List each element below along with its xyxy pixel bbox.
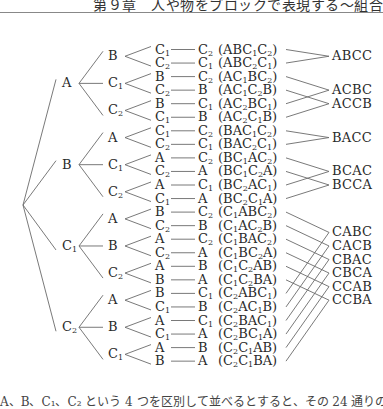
result-label: CCBA <box>332 293 372 306</box>
level2-edge <box>125 219 151 229</box>
root-edge-0 <box>23 79 56 205</box>
level3-node: C1 <box>155 327 170 340</box>
level3-node: C2 <box>155 246 170 259</box>
level4-node: C2 <box>198 70 213 83</box>
level4-node: A <box>198 192 207 205</box>
level3-node: B <box>155 70 165 83</box>
level3-node: A <box>155 341 164 354</box>
level3-node: B <box>155 286 165 299</box>
level1-edge <box>79 246 103 278</box>
level3-node: C1 <box>155 110 170 123</box>
level4-node: C2 <box>198 43 213 56</box>
level3-node: B <box>155 205 165 218</box>
merge-edge <box>286 226 329 246</box>
level3-node: C2 <box>155 56 170 69</box>
merge-edge <box>286 212 329 232</box>
root-edge-3 <box>23 205 56 331</box>
sequence-label: (C1ABC2) <box>218 205 277 218</box>
level2-edge <box>125 110 151 120</box>
level2-node: C1 <box>108 347 123 360</box>
result-label: CBCA <box>332 266 372 279</box>
level4-node: C2 <box>198 205 213 218</box>
result-label: BCCA <box>332 178 372 191</box>
level3-node: A <box>155 178 164 191</box>
merge-edge <box>286 56 329 63</box>
sequence-label: (BC1C2A) <box>218 164 277 177</box>
root-edge-1 <box>23 161 56 205</box>
level4-node: A <box>198 246 207 259</box>
level4-node: A <box>198 354 207 367</box>
footer-text: A、B、C₁、C₂ という 4 つを区別して並べるとすると、その 24 通りの全… <box>0 392 383 409</box>
merge-edge <box>286 50 329 57</box>
level3-node: B <box>155 354 165 367</box>
level2-edge <box>125 47 151 57</box>
result-label: CCAB <box>332 280 372 293</box>
level1-node: C1 <box>62 239 77 252</box>
level2-node: A <box>108 212 117 225</box>
level1-edge <box>79 133 103 165</box>
merge-edge <box>286 300 329 361</box>
level4-node: A <box>198 327 207 340</box>
level2-node: C1 <box>108 76 123 89</box>
level1-edge <box>79 83 103 115</box>
sequence-label: (AC2BC1) <box>218 97 277 110</box>
level2-edge <box>125 246 151 256</box>
level4-node: C2 <box>198 232 213 245</box>
level3-node: C1 <box>155 43 170 56</box>
level1-node: B <box>62 158 72 171</box>
result-label: BCAC <box>332 164 372 177</box>
root-edge-2 <box>23 205 56 250</box>
level2-node: B <box>108 49 118 62</box>
level2-edge <box>125 209 151 219</box>
level3-node: A <box>155 232 164 245</box>
level2-edge <box>125 56 151 66</box>
sequence-label: (BAC1C2) <box>218 124 277 137</box>
sequence-label: (C2ABC1) <box>218 286 277 299</box>
level4-node: A <box>198 273 207 286</box>
sequence-label: (C1BAC2) <box>218 232 277 245</box>
level2-edge <box>125 300 151 310</box>
sequence-label: (BAC2C1) <box>218 137 277 150</box>
level2-edge <box>125 83 151 93</box>
level4-node: B <box>198 259 208 272</box>
result-label: ABCC <box>332 49 372 62</box>
sequence-label: (BC2AC1) <box>218 178 277 191</box>
level4-node: B <box>198 110 208 123</box>
sequence-label: (C2BAC1) <box>218 314 277 327</box>
sequence-label: (AC1C2B) <box>218 83 277 96</box>
level3-node: C2 <box>155 137 170 150</box>
result-label: ACCB <box>332 97 372 110</box>
sequence-label: (BC2C1A) <box>218 192 277 205</box>
sequence-label: (ABC1C2) <box>218 43 277 56</box>
sequence-label: (AC2C1B) <box>218 110 277 123</box>
level4-node: B <box>198 341 208 354</box>
merge-edge <box>286 131 329 138</box>
level2-edge <box>125 236 151 246</box>
sequence-label: (C2C1AB) <box>218 341 277 354</box>
level2-edge <box>125 155 151 165</box>
sequence-label: (C1BC2A) <box>218 246 277 259</box>
level4-node: C1 <box>198 56 213 69</box>
level2-node: C2 <box>108 103 123 116</box>
level2-node: C2 <box>108 185 123 198</box>
level4-node: A <box>198 164 207 177</box>
merge-edge <box>286 104 329 118</box>
level1-edge <box>79 165 103 197</box>
level3-node: C1 <box>155 300 170 313</box>
merge-edge <box>286 185 329 199</box>
level3-node: C2 <box>155 219 170 232</box>
level3-node: C1 <box>155 124 170 137</box>
level4-node: C1 <box>198 137 213 150</box>
sequence-label: (C2C1BA) <box>218 354 277 367</box>
level4-node: C2 <box>198 151 213 164</box>
level2-node: C2 <box>108 266 123 279</box>
level2-node: B <box>108 320 118 333</box>
sequence-label: (C1AC2B) <box>218 219 277 232</box>
level2-node: A <box>108 131 117 144</box>
sequence-label: (C2AC1B) <box>218 300 277 313</box>
level3-node: B <box>155 97 165 110</box>
level2-edge <box>125 273 151 283</box>
level2-edge <box>125 101 151 111</box>
level1-edge <box>79 327 103 359</box>
